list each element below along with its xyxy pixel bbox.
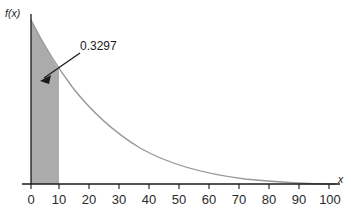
exponential-distribution-chart: f(x) x 0.3297 0 10 20 30 40 50 60 70 80 … xyxy=(0,0,351,210)
exponential-curve xyxy=(31,20,336,184)
x-tick-label-50: 50 xyxy=(172,192,186,207)
x-tick-label-70: 70 xyxy=(232,192,246,207)
x-axis-label: x xyxy=(337,173,344,185)
x-tick-label-40: 40 xyxy=(142,192,156,207)
x-tick-label-100: 100 xyxy=(319,192,341,207)
y-axis-label: f(x) xyxy=(5,7,20,19)
chart-canvas: f(x) x 0.3297 0 10 20 30 40 50 60 70 80 … xyxy=(0,0,351,210)
x-tick-label-30: 30 xyxy=(112,192,126,207)
x-tick-label-10: 10 xyxy=(52,192,66,207)
x-tick-label-20: 20 xyxy=(82,192,96,207)
x-tick-label-80: 80 xyxy=(262,192,276,207)
shaded-area-value-label: 0.3297 xyxy=(80,39,117,53)
x-axis-ticks xyxy=(31,184,329,189)
x-tick-label-60: 60 xyxy=(202,192,216,207)
x-tick-label-0: 0 xyxy=(27,192,34,207)
x-tick-label-90: 90 xyxy=(292,192,306,207)
